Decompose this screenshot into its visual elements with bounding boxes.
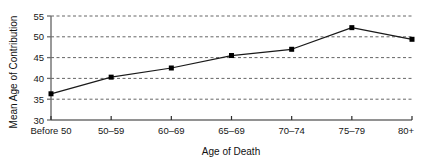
data-point-marker [229, 53, 234, 58]
y-axis-title: Mean Age of Contribution [8, 16, 19, 129]
data-point-marker [49, 91, 54, 96]
x-axis-category-label: Before 50 [30, 125, 71, 136]
x-axis-category-label: 80+ [398, 125, 415, 136]
x-axis-category-label: 60–69 [158, 125, 184, 136]
y-axis-tick-label: 55 [33, 11, 44, 22]
data-point-marker [289, 47, 294, 52]
y-axis-tick-label: 35 [33, 94, 44, 105]
x-axis-title: Age of Death [202, 146, 260, 157]
y-axis-tick-label: 50 [33, 31, 44, 42]
y-axis-tick-label: 45 [33, 52, 44, 63]
data-point-marker [109, 75, 114, 80]
x-axis-category-label: 70–74 [278, 125, 304, 136]
chart-background [0, 0, 424, 164]
y-axis-tick-label: 40 [33, 73, 44, 84]
data-point-marker [410, 37, 415, 42]
x-axis-category-label: 65–69 [218, 125, 244, 136]
chart-canvas: 303540455055 Before 5050–5960–6965–6970–… [0, 0, 424, 164]
y-axis-tick-label: 30 [33, 115, 44, 126]
data-point-marker [349, 25, 354, 30]
x-axis-category-label: 50–59 [98, 125, 124, 136]
x-axis-category-label: 75–79 [339, 125, 365, 136]
line-chart: 303540455055 Before 5050–5960–6965–6970–… [0, 0, 424, 164]
data-point-marker [169, 66, 174, 71]
